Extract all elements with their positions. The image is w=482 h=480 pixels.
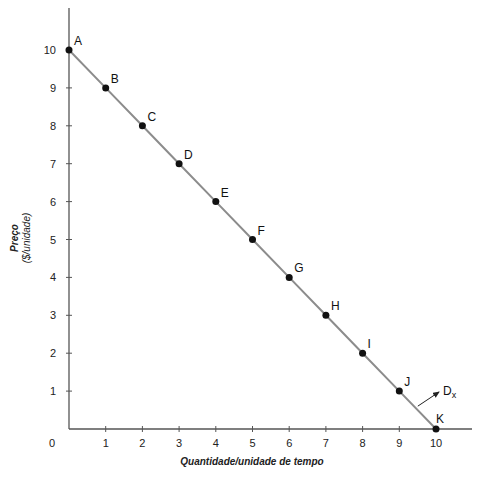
dx-label: Dx <box>443 384 457 400</box>
dx-arrow <box>418 392 439 406</box>
point-label-j: J <box>404 375 410 389</box>
data-point-h <box>322 312 329 319</box>
x-tick-label: 9 <box>396 437 402 449</box>
y-tick-label: 4 <box>50 271 56 283</box>
data-point-i <box>359 350 366 357</box>
y-tick-label: 10 <box>44 44 56 56</box>
x-tick-label: 10 <box>430 437 442 449</box>
point-label-k: K <box>436 412 444 426</box>
y-tick-label: 8 <box>50 120 56 132</box>
point-label-b: B <box>111 72 119 86</box>
data-point-c <box>139 122 146 129</box>
x-axis-title: Quantidade/unidade de tempo <box>180 456 323 467</box>
y-tick-label: 3 <box>50 309 56 321</box>
point-label-f: F <box>258 224 265 238</box>
y-tick-label: 7 <box>50 158 56 170</box>
y-ticks: 12345678910 <box>44 44 72 397</box>
point-label-h: H <box>331 299 340 313</box>
y-axis-title-main: Preço <box>9 224 20 252</box>
point-label-d: D <box>184 148 193 162</box>
x-tick-label: 6 <box>286 437 292 449</box>
x-tick-label: 2 <box>139 437 145 449</box>
data-point-f <box>249 236 256 243</box>
y-axis-title-unit: ($/unidade) <box>21 213 32 264</box>
dx-annotation: Dx <box>418 384 457 406</box>
data-point-j <box>396 388 403 395</box>
x-tick-label: 7 <box>323 437 329 449</box>
y-tick-label: 1 <box>50 385 56 397</box>
y-tick-label: 9 <box>50 82 56 94</box>
data-points: ABCDEFGHIJK <box>66 34 445 433</box>
origin-label: 0 <box>49 437 55 449</box>
y-tick-label: 6 <box>50 196 56 208</box>
data-point-b <box>102 84 109 91</box>
y-tick-label: 5 <box>50 234 56 246</box>
y-tick-label: 2 <box>50 347 56 359</box>
point-label-i: I <box>368 337 371 351</box>
data-point-k <box>433 426 440 433</box>
x-tick-label: 8 <box>360 437 366 449</box>
data-point-d <box>176 160 183 167</box>
data-point-e <box>212 198 219 205</box>
x-tick-label: 4 <box>213 437 219 449</box>
data-point-g <box>286 274 293 281</box>
point-label-a: A <box>74 34 82 48</box>
x-tick-label: 5 <box>249 437 255 449</box>
y-axis-title: Preço ($/unidade) <box>9 213 32 264</box>
x-tick-label: 3 <box>176 437 182 449</box>
demand-chart: 12345678910 12345678910 0 ABCDEFGHIJK Dx… <box>0 0 482 480</box>
x-tick-label: 1 <box>103 437 109 449</box>
point-label-c: C <box>147 110 156 124</box>
point-label-e: E <box>221 186 229 200</box>
data-point-a <box>66 47 73 54</box>
point-label-g: G <box>294 261 303 275</box>
